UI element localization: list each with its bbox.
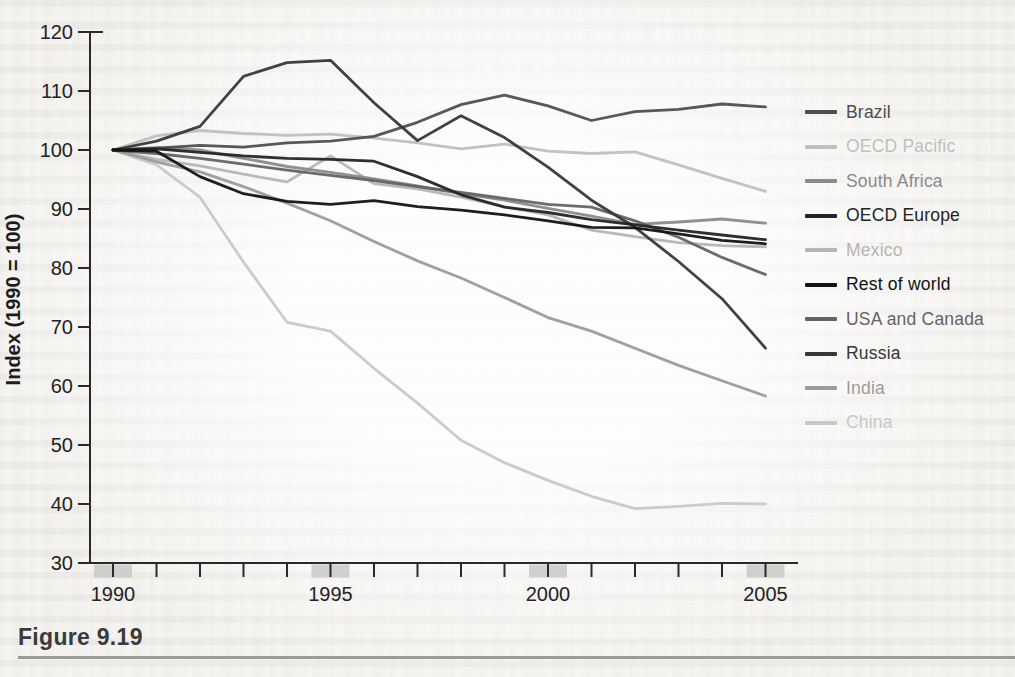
y-tick-label: 30 — [51, 552, 73, 574]
legend-swatch-usa-and-canada — [805, 317, 837, 321]
legend-item-india: India — [805, 376, 885, 400]
series-line-brazil — [113, 95, 766, 150]
x-tick-label: 1995 — [308, 583, 353, 605]
y-tick-label: 110 — [41, 80, 73, 102]
legend-label-brazil: Brazil — [846, 102, 891, 123]
line-chart-figure: 304050607080901001101201990199520002005I… — [0, 0, 1015, 620]
y-tick-label: 100 — [40, 139, 73, 161]
legend-item-mexico: Mexico — [805, 238, 903, 262]
legend-item-russia: Russia — [805, 342, 901, 366]
legend-item-oecd-pacific: OECD Pacific — [805, 135, 955, 159]
legend-item-oecd-europe: OECD Europe — [805, 204, 960, 228]
y-tick-label: 70 — [51, 316, 73, 338]
legend-swatch-oecd-europe — [805, 214, 837, 218]
figure-caption: Figure 9.19 — [18, 624, 1015, 651]
x-tick-label: 2000 — [526, 583, 571, 605]
legend-label-india: India — [846, 378, 885, 399]
x-tick-label: 1990 — [91, 583, 136, 605]
y-tick-label: 60 — [51, 375, 73, 397]
y-tick-label: 120 — [40, 21, 73, 43]
legend-swatch-oecd-pacific — [805, 145, 837, 149]
y-axis-title: Index (1990 = 100) — [2, 214, 24, 386]
legend-item-usa-and-canada: USA and Canada — [805, 307, 984, 331]
legend-label-oecd-pacific: OECD Pacific — [846, 136, 955, 157]
legend-swatch-mexico — [805, 248, 837, 252]
legend-item-brazil: Brazil — [805, 100, 891, 124]
legend-swatch-china — [805, 421, 837, 425]
legend-label-russia: Russia — [846, 343, 901, 364]
legend-item-rest-of-world: Rest of world — [805, 273, 951, 297]
series-line-russia — [113, 60, 766, 348]
legend-swatch-india — [805, 386, 837, 390]
legend-label-south-africa: South Africa — [846, 171, 943, 192]
legend-swatch-russia — [805, 352, 837, 356]
series-line-china — [113, 150, 766, 509]
legend-swatch-rest-of-world — [805, 283, 837, 287]
legend-label-rest-of-world: Rest of world — [846, 274, 951, 295]
legend-label-china: China — [846, 412, 893, 433]
figure-caption-block: Figure 9.19 — [0, 618, 1015, 659]
legend-swatch-brazil — [805, 110, 837, 114]
y-tick-label: 50 — [51, 434, 73, 456]
chart-legend: BrazilOECD PacificSouth AfricaOECD Europ… — [805, 0, 1015, 460]
legend-label-mexico: Mexico — [846, 240, 903, 261]
legend-label-usa-and-canada: USA and Canada — [846, 309, 984, 330]
y-tick-label: 40 — [51, 493, 73, 515]
legend-label-oecd-europe: OECD Europe — [846, 205, 960, 226]
chart-canvas: 304050607080901001101201990199520002005I… — [0, 0, 810, 620]
legend-swatch-south-africa — [805, 179, 837, 183]
caption-rule — [18, 656, 1015, 659]
legend-item-south-africa: South Africa — [805, 169, 943, 193]
y-tick-label: 80 — [51, 257, 73, 279]
y-tick-label: 90 — [51, 198, 73, 220]
x-tick-label: 2005 — [743, 583, 788, 605]
legend-item-china: China — [805, 411, 893, 435]
